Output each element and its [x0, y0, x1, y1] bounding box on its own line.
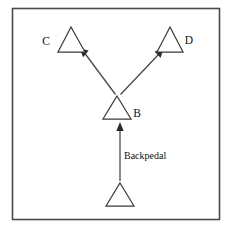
node-c-label: C — [42, 35, 50, 47]
backpedal-edge-label: Backpedal — [124, 150, 166, 161]
node-b-label: B — [133, 107, 141, 119]
diagram-figure: C D B Backpedal — [0, 0, 230, 228]
node-d-label: D — [185, 34, 193, 46]
